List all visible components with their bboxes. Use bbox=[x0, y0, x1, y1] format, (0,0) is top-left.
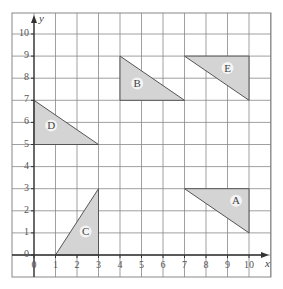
x-tick-label: 5 bbox=[139, 259, 144, 270]
x-tick-label: 3 bbox=[96, 259, 101, 270]
shape-label-a: A bbox=[232, 194, 240, 206]
x-tick-label: 9 bbox=[225, 259, 230, 270]
x-tick-label: 10 bbox=[244, 259, 254, 270]
x-tick-label: 0 bbox=[32, 259, 37, 270]
y-tick-label: 6 bbox=[24, 115, 29, 126]
x-tick-label: 2 bbox=[75, 259, 80, 270]
x-tick-label: 1 bbox=[53, 259, 58, 270]
y-axis-label: y bbox=[38, 12, 44, 24]
y-tick-label: 4 bbox=[24, 160, 29, 171]
x-tick-label: 6 bbox=[161, 259, 166, 270]
y-tick-label: 10 bbox=[19, 27, 29, 38]
shape-label-e: E bbox=[224, 62, 231, 74]
y-tick-label: 2 bbox=[24, 204, 29, 215]
y-tick-label: 5 bbox=[24, 138, 29, 149]
shape-label-c: C bbox=[82, 225, 89, 237]
y-tick-label: 1 bbox=[24, 226, 29, 237]
y-axis-arrow-icon bbox=[31, 15, 37, 23]
shape-label-d: D bbox=[47, 119, 55, 131]
coordinate-grid: ABCDEyx012345678910012345678910 bbox=[0, 0, 283, 289]
y-tick-label: 9 bbox=[24, 49, 29, 60]
x-tick-label: 4 bbox=[118, 259, 123, 270]
x-axis-label: x bbox=[264, 257, 270, 269]
y-tick-label: 7 bbox=[24, 93, 29, 104]
y-tick-label: 0 bbox=[24, 248, 29, 259]
x-tick-label: 7 bbox=[182, 259, 187, 270]
y-tick-label: 3 bbox=[24, 182, 29, 193]
y-tick-label: 8 bbox=[24, 71, 29, 82]
x-tick-label: 8 bbox=[204, 259, 209, 270]
shape-label-b: B bbox=[134, 77, 141, 89]
